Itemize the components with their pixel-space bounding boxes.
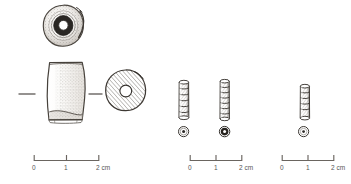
scale-bar-left-tick-1: 1 [64,164,68,171]
profile-axis-tick-left [18,92,36,96]
scale-bar-left-unit: 2 cm [96,164,110,171]
scale-bar-left-tick-0: 0 [32,164,36,171]
scale-bar-middle-tick-1: 1 [214,164,218,171]
segmented-bead-1 [172,79,196,125]
scale-bar-right: 0 1 2 cm [281,153,339,175]
large-bead-profile [38,57,96,137]
segmented-bead-3-section [296,125,312,139]
scale-bar-right-unit: 2 cm [331,164,345,171]
scale-bar-middle: 0 1 2 cm [189,153,247,175]
segmented-bead-3 [294,83,316,125]
segmented-bead-2 [214,78,236,126]
segmented-bead-1-section [176,125,192,139]
scale-bar-middle-unit: 2 cm [239,164,253,171]
large-bead-end-view [30,0,96,61]
scale-bar-left: 0 1 2 cm [33,153,103,175]
large-bead-section [101,66,151,118]
segmented-bead-2-section [217,125,233,139]
scale-bar-right-tick-0: 0 [280,164,284,171]
scale-bar-right-tick-1: 1 [306,164,310,171]
illustration-plate: 0 1 2 cm 0 1 2 cm 0 1 2 cm [0,0,351,184]
scale-bar-middle-tick-0: 0 [188,164,192,171]
